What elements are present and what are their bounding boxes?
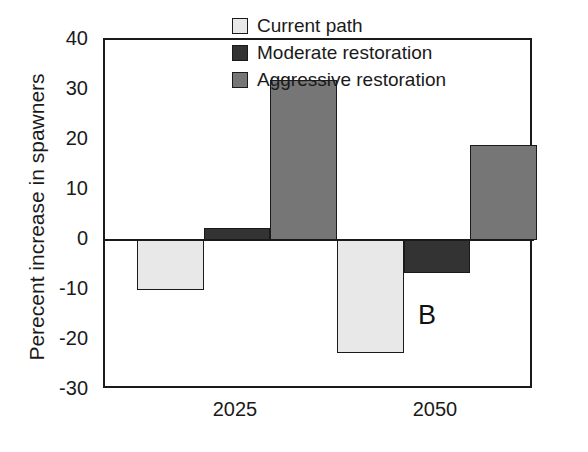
y-tick-label: 40 [42,27,88,50]
y-tick-label: 0 [42,227,88,250]
y-tick-label: -30 [42,377,88,400]
bar [137,240,204,290]
chart-figure: Perecent increase in spawners 403020100-… [0,0,588,452]
legend-item: Current path [232,12,446,39]
bar [404,240,471,273]
legend-label: Current path [257,15,363,37]
y-tick-label: 30 [42,77,88,100]
y-tick-label: -10 [42,277,88,300]
y-tick-label: 20 [42,127,88,150]
legend-swatch-icon [232,18,248,34]
y-tick-label: -20 [42,327,88,350]
y-tick-label: 10 [42,177,88,200]
legend-label: Moderate restoration [257,42,432,64]
chart-legend: Current pathModerate restorationAggressi… [232,12,446,93]
bar [470,145,537,240]
bar [204,228,271,241]
y-axis-tick-labels: 403020100-10-20-30 [42,0,88,452]
x-tick-label: 2050 [413,398,458,421]
bar [337,240,404,353]
legend-item: Moderate restoration [232,39,446,66]
legend-swatch-icon [232,72,248,88]
panel-label: B [418,300,436,331]
legend-item: Aggressive restoration [232,66,446,93]
legend-swatch-icon [232,45,248,61]
x-tick-label: 2025 [213,398,258,421]
bar [270,80,337,240]
legend-label: Aggressive restoration [257,69,446,91]
